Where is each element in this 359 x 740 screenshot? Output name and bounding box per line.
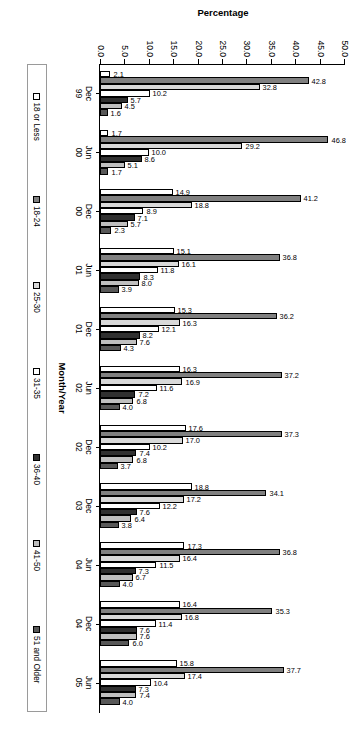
bar-value-label: 10.4 [154, 679, 168, 686]
bar-group: 18.834.117.212.27.66.43.8Dec03 [100, 476, 345, 535]
x-axis-tick-label-month: Dec [84, 86, 94, 101]
bar-value-label: 11.4 [159, 620, 173, 627]
bar-group: 1.746.829.210.08.65.11.7Jun00 [100, 123, 345, 182]
legend-item-label: 41-50 [33, 550, 42, 571]
x-axis-tick-label: Jun04 [74, 558, 94, 572]
x-axis-tick [96, 447, 100, 448]
x-axis-tick [96, 388, 100, 389]
bar-group: 16.435.316.811.47.67.66.0Dec04 [100, 594, 345, 653]
bar-value-label: 16.4 [183, 555, 197, 562]
x-axis-tick-label-month: Dec [84, 439, 94, 454]
bar-value-label: 34.1 [269, 490, 283, 497]
bar-value-label: 18.8 [195, 202, 209, 209]
x-axis-tick-label: Dec04 [74, 616, 94, 631]
x-axis-tick-label: Jun02 [74, 381, 94, 395]
y-axis-tick-label: 15.0 [170, 40, 179, 57]
bar-value-label: 4.0 [123, 404, 133, 411]
legend-swatch-25-30-icon [34, 282, 41, 289]
bar-value-label: 4.0 [123, 699, 133, 706]
bar-value-label: 3.9 [122, 286, 132, 293]
x-axis-tick-label: Dec01 [74, 322, 94, 337]
bar-value-label: 8.0 [142, 280, 152, 287]
bar-value-label: 1.6 [111, 110, 121, 117]
bar-value-label: 37.7 [287, 667, 301, 674]
bar-group: 17.637.317.010.27.46.83.7Dec02 [100, 417, 345, 476]
bar-value-label: 16.3 [183, 320, 197, 327]
bar-value-label: 36.8 [283, 254, 297, 261]
bar-value-label: 11.5 [159, 562, 173, 569]
x-axis-tick-label-year: 01 [74, 263, 84, 277]
bar-value-label: 6.8 [136, 398, 146, 405]
legend-item[interactable]: 18 or Less [33, 93, 42, 141]
bar: 3.7 [100, 463, 118, 469]
bar-value-label: 41.2 [304, 195, 318, 202]
bar-value-label: 16.1 [182, 261, 196, 268]
bar-value-label: 4.5 [125, 103, 135, 110]
x-axis-tick-label-month: Dec [84, 498, 94, 513]
y-axis-tick-label: 10.0 [146, 40, 155, 57]
bar-value-label: 2.3 [114, 227, 124, 234]
legend-swatch-18-or-less-icon [34, 93, 41, 100]
x-axis-tick-label: Jun01 [74, 263, 94, 277]
y-axis-tick-label: 35.0 [268, 40, 277, 57]
bar-value-label: 17.0 [186, 437, 200, 444]
x-axis-tick [96, 152, 100, 153]
legend-item[interactable]: 51 and Older [33, 626, 42, 683]
legend-item-label: 25-30 [33, 292, 42, 313]
bar-value-label: 12.2 [163, 503, 177, 510]
bar-value-label: 36.8 [283, 549, 297, 556]
x-axis-title: Month/Year [57, 64, 68, 712]
bar-value-label: 8.9 [146, 208, 156, 215]
y-axis-tick-label: 0.0 [97, 45, 106, 57]
legend-swatch-36-40-icon [34, 454, 41, 461]
y-axis-tick-label: 50.0 [341, 40, 350, 57]
bar-value-label: 3.8 [122, 522, 132, 529]
y-axis-tick-label: 45.0 [316, 40, 325, 57]
bar: 3.9 [100, 286, 119, 292]
x-axis-tick [96, 565, 100, 566]
bar-value-label: 46.8 [331, 136, 345, 143]
bar-value-label: 4.3 [124, 345, 134, 352]
bar: 1.7 [100, 168, 108, 174]
x-axis-tick-label-month: Jun [84, 146, 94, 160]
bar: 4.0 [100, 404, 120, 410]
bar-value-label: 7.6 [140, 339, 150, 346]
bar-value-label: 12.1 [162, 326, 176, 333]
x-axis-tick [96, 329, 100, 330]
x-axis-tick-label-year: 03 [74, 498, 84, 513]
bar-group: 2.142.832.810.25.74.51.6Dec99 [100, 64, 345, 123]
bar-group: 14.941.218.88.97.15.72.3Dec00 [100, 182, 345, 241]
bar: 4.0 [100, 581, 120, 587]
legend-item[interactable]: 36-40 [33, 454, 42, 485]
legend-item[interactable]: 41-50 [33, 540, 42, 571]
bar-value-label: 6.8 [136, 457, 146, 464]
legend-swatch-41-50-icon [34, 540, 41, 547]
y-axis-title: Percentage [101, 7, 345, 19]
bar: 2.3 [100, 227, 111, 233]
bar-value-label: 32.8 [263, 84, 277, 91]
bar-value-label: 36.2 [280, 313, 294, 320]
legend-item[interactable]: 25-30 [33, 282, 42, 313]
x-axis-tick-label-month: Dec [84, 204, 94, 219]
x-axis-tick-label-month: Jun [84, 263, 94, 277]
x-axis-tick-label-year: 04 [74, 616, 84, 631]
legend-swatch-31-35-icon [34, 368, 41, 375]
legend-item[interactable]: 18-24 [33, 196, 42, 227]
x-axis-tick-label: Jun05 [74, 676, 94, 690]
bar-value-label: 8.6 [145, 156, 155, 163]
x-axis-tick-label: Dec99 [74, 86, 94, 101]
bar: 6.0 [100, 640, 129, 646]
bar-value-label: 1.7 [111, 168, 121, 175]
y-axis-tick-label: 25.0 [219, 40, 228, 57]
bar-group: 15.837.717.410.47.37.44.0Jun05 [100, 653, 345, 712]
legend-item[interactable]: 31-35 [33, 368, 42, 399]
bar-value-label: 11.8 [161, 267, 175, 274]
bar-group: 15.336.216.312.18.27.64.3Dec01 [100, 300, 345, 359]
bar-value-label: 37.2 [285, 372, 299, 379]
y-axis-tick-label: 20.0 [194, 40, 203, 57]
y-axis-tick-label: 5.0 [121, 45, 130, 57]
bar-value-label: 5.1 [128, 162, 138, 169]
x-axis-tick-label: Dec00 [74, 204, 94, 219]
x-axis-tick [96, 93, 100, 94]
legend-swatch-18-24-icon [34, 196, 41, 203]
